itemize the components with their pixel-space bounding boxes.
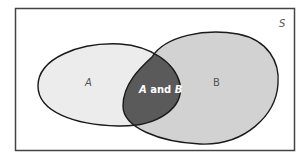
venn-diagram: S A B A and B xyxy=(0,0,308,159)
set-b-label: B xyxy=(213,77,220,88)
intersection-label-a: A xyxy=(138,84,147,95)
set-a-label: A xyxy=(84,77,92,88)
intersection-label-b: B xyxy=(175,84,183,95)
intersection-label: A and B xyxy=(138,84,182,95)
universe-label: S xyxy=(279,18,286,29)
intersection-label-and: and xyxy=(147,84,175,95)
